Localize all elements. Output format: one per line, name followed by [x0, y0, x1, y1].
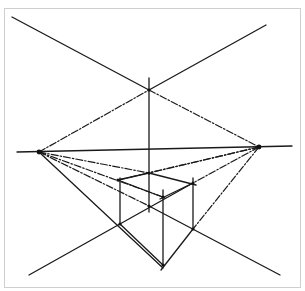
- upper-left-diagonal: [12, 17, 149, 90]
- left-vp-point: [37, 150, 42, 155]
- box-top-back-to-right: [149, 173, 196, 185]
- box-top-front-to-right: [160, 183, 193, 199]
- right-vp-point: [257, 145, 262, 150]
- upper-right-diagonal: [149, 25, 266, 90]
- box-top-front-point: [161, 195, 164, 198]
- right-vp-to-top-right: [193, 147, 259, 183]
- box-bottom-front-point: [161, 263, 164, 266]
- box-bottom-left-to-front: [120, 224, 163, 265]
- box-top-left-point: [116, 178, 119, 181]
- box-top-back-point: [147, 171, 150, 174]
- box-bottom-back-point: [147, 204, 150, 207]
- box-bottom-left-point: [118, 222, 121, 225]
- box-bottom-right-to-front: [161, 229, 193, 270]
- box-top-right-point: [191, 181, 194, 184]
- left-vp-to-top-cross: [39, 90, 149, 152]
- left-vp-to-bottom-back: [39, 152, 149, 206]
- right-vp-to-top-left: [118, 147, 259, 180]
- right-vp-to-bottom-right: [193, 147, 259, 229]
- left-vp-to-top-back: [39, 152, 149, 173]
- box-bottom-right-point: [191, 227, 194, 230]
- top-cross-point: [147, 88, 150, 91]
- top-cross-to-right-vp: [149, 90, 259, 147]
- lower-right-diagonal: [149, 206, 280, 275]
- perspective-diagram: [0, 0, 305, 291]
- solid-construction-lines: [12, 17, 292, 275]
